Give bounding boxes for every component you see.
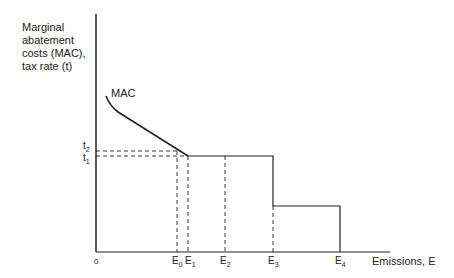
origin-label: 0 bbox=[94, 257, 98, 266]
mac-curve-label: MAC bbox=[111, 87, 135, 100]
y-label-line: Marginal bbox=[22, 21, 102, 34]
x-tick-e0: E0 bbox=[172, 255, 183, 268]
x-axis-label: Emissions, E bbox=[372, 255, 436, 268]
y-axis-label: Marginal abatement costs (MAC), tax rate… bbox=[22, 21, 102, 73]
x-tick-e3: E3 bbox=[268, 255, 279, 268]
mac-curve bbox=[106, 96, 188, 156]
x-tick-e2: E2 bbox=[220, 255, 231, 268]
x-tick-e1: E1 bbox=[185, 255, 196, 268]
tax-schedule bbox=[188, 156, 340, 252]
y-label-line: abatement bbox=[22, 34, 102, 47]
y-tick-t1: t1 bbox=[83, 152, 90, 165]
y-label-line: tax rate (t) bbox=[22, 60, 102, 73]
y-label-line: costs (MAC), bbox=[22, 47, 102, 60]
x-tick-e4: E4 bbox=[335, 255, 346, 268]
